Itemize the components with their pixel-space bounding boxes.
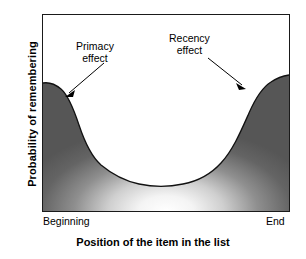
x-tick-label-beginning: Beginning xyxy=(43,215,90,227)
x-tick-label-end: End xyxy=(266,215,285,227)
curve-fill xyxy=(43,75,289,211)
recency-arrow xyxy=(208,58,246,90)
plot-area: Primacy effect Recency effect xyxy=(42,14,290,212)
primacy-effect-line1: Primacy xyxy=(76,41,114,53)
recency-effect-annotation: Recency effect xyxy=(169,33,210,56)
y-axis-label: Probability of remembering xyxy=(26,19,38,209)
recency-effect-line2: effect xyxy=(169,45,210,57)
serial-position-curve-figure: Probability of remembering xyxy=(0,0,306,259)
primacy-effect-annotation: Primacy effect xyxy=(76,41,114,64)
x-axis-label: Position of the item in the list xyxy=(0,236,306,248)
primacy-arrow xyxy=(65,63,104,97)
primacy-effect-line2: effect xyxy=(76,53,114,65)
recency-effect-line1: Recency xyxy=(169,33,210,45)
